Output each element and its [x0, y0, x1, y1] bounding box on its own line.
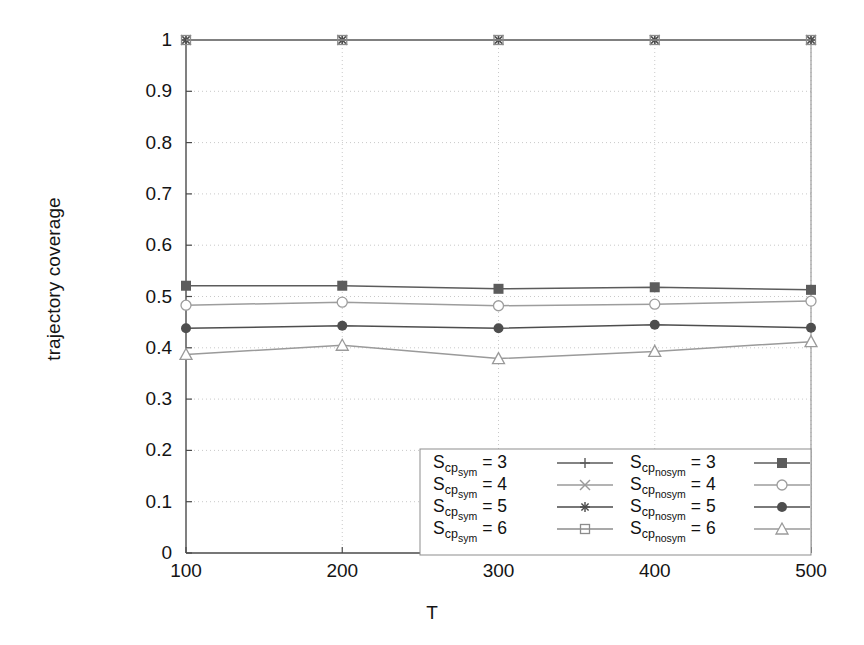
data-marker [337, 321, 347, 331]
plot-svg: Scpsym= 3Scpsym= 4Scpsym= 5Scpsym= 6Scpn… [0, 0, 864, 645]
data-marker [806, 285, 816, 295]
data-marker [777, 502, 787, 512]
series-7 [180, 336, 817, 364]
data-marker [337, 297, 347, 307]
legend: Scpsym= 3Scpsym= 4Scpsym= 5Scpsym= 6Scpn… [420, 449, 811, 555]
data-marker [181, 300, 191, 310]
series-4 [181, 281, 816, 295]
data-marker [650, 282, 660, 292]
data-marker [337, 281, 347, 291]
data-marker [650, 320, 660, 330]
data-marker [806, 323, 816, 333]
data-marker [181, 323, 191, 333]
data-marker [181, 281, 191, 291]
series-5 [181, 296, 816, 311]
data-marker [777, 458, 787, 468]
chart-container: trajectory coverage T 00.10.20.30.40.50.… [0, 0, 864, 645]
data-marker [494, 323, 504, 333]
data-marker [805, 336, 817, 347]
data-marker [494, 284, 504, 294]
data-marker [650, 299, 660, 309]
data-marker [494, 301, 504, 311]
data-marker [806, 296, 816, 306]
series-6 [181, 320, 816, 334]
data-marker [777, 480, 787, 490]
legend-box [420, 449, 811, 555]
